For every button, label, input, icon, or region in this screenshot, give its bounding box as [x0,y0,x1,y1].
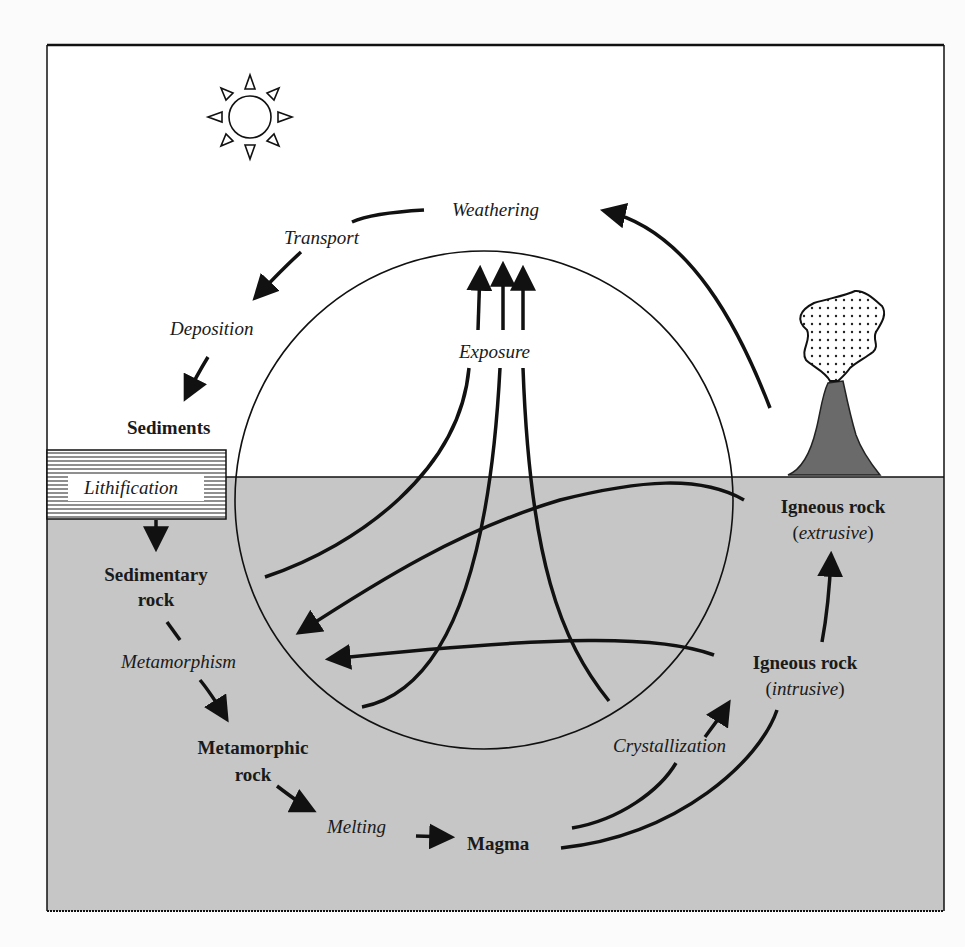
igneous-extrusive-sub: extrusive [799,522,868,543]
label-igneous-extrusive: Igneous rock (extrusive) [758,494,908,546]
metamorphic-line2: rock [178,761,328,788]
label-metamorphic-rock: Metamorphic rock [178,734,328,788]
rock-cycle-diagram: Weathering Transport Deposition Sediment… [0,0,965,947]
label-deposition: Deposition [170,319,253,338]
arrow-exposure-1 [478,270,480,330]
igneous-intrusive-title: Igneous rock [730,650,880,676]
label-weathering: Weathering [452,200,539,219]
diagram-canvas [0,0,965,947]
metamorphic-line1: Metamorphic [178,734,328,761]
sedimentary-line1: Sedimentary [86,562,226,587]
label-crystallization: Crystallization [613,736,726,755]
label-sediments: Sediments [127,418,210,437]
arrow-melting-magma [416,836,450,837]
sedimentary-line2: rock [86,587,226,612]
label-transport: Transport [284,228,359,247]
igneous-intrusive-sub: intrusive [772,678,839,699]
label-magma: Magma [467,834,529,853]
label-igneous-intrusive: Igneous rock (intrusive) [730,650,880,702]
igneous-extrusive-title: Igneous rock [758,494,908,520]
label-lithification: Lithification [84,478,178,497]
label-metamorphism: Metamorphism [121,652,236,671]
label-sedimentary-rock: Sedimentary rock [86,562,226,612]
label-exposure: Exposure [459,342,530,361]
paren-close: ) [867,522,873,543]
label-melting: Melting [327,817,386,836]
paren-close: ) [838,678,844,699]
